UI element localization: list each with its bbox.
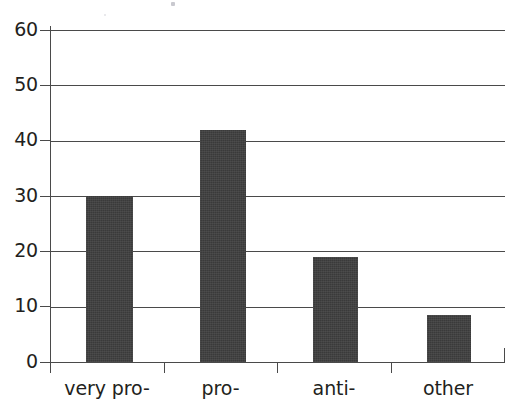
y-tick-mark-10 — [40, 306, 50, 307]
y-tick-mark-20 — [40, 251, 50, 252]
bar-very-pro — [86, 196, 133, 362]
y-tick-mark-30 — [40, 196, 50, 197]
scan-artifact — [171, 2, 175, 6]
y-tick-label-50: 50 — [4, 75, 38, 94]
bar-other — [427, 315, 471, 362]
bar-chart: 60 50 40 30 20 10 0 very pro- pro- anti- — [0, 0, 514, 415]
y-tick-label-0: 0 — [4, 352, 38, 371]
y-tick-label-60: 60 — [4, 20, 38, 39]
x-tick-label-very-pro: very pro- — [50, 377, 164, 399]
x-tick-mark-2 — [277, 362, 278, 373]
x-tick-mark-1 — [164, 362, 165, 373]
y-tick-mark-0 — [40, 362, 50, 363]
y-tick-label-20: 20 — [4, 241, 38, 260]
y-tick-mark-60 — [40, 30, 50, 31]
y-tick-mark-50 — [40, 85, 50, 86]
x-tick-label-pro: pro- — [164, 377, 277, 399]
x-tick-mark-end — [504, 348, 505, 363]
y-tick-mark-40 — [40, 140, 50, 141]
x-tick-label-other: other — [391, 377, 505, 399]
y-tick-label-10: 10 — [4, 296, 38, 315]
x-tick-mark-3 — [391, 362, 392, 373]
scan-artifact — [104, 14, 106, 16]
y-axis-labels: 60 50 40 30 20 10 0 — [0, 0, 38, 415]
bar-anti — [313, 257, 358, 362]
plot-area — [50, 30, 505, 362]
x-tick-label-anti: anti- — [277, 377, 391, 399]
gridline-40 — [50, 141, 505, 142]
gridline-50 — [50, 85, 505, 86]
bar-pro — [200, 130, 246, 362]
y-tick-label-40: 40 — [4, 130, 38, 149]
x-tick-mark-start — [50, 362, 51, 373]
y-tick-label-30: 30 — [4, 186, 38, 205]
gridline-60 — [50, 30, 505, 31]
